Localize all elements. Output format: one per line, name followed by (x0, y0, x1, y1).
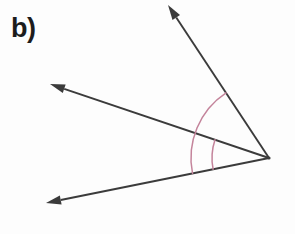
middle-ray-arrowhead (50, 84, 66, 93)
middle-ray (50, 84, 269, 158)
upper-ray-line (176, 18, 269, 158)
middle-ray-line (64, 89, 269, 158)
lower-ray-line (61, 158, 269, 200)
inner-angle-arc (212, 140, 215, 170)
upper-ray (168, 5, 269, 158)
angle-diagram-figure: b) (0, 0, 295, 234)
upper-ray-arrowhead (168, 5, 180, 20)
lower-ray (46, 158, 269, 204)
vertex-point (267, 156, 270, 159)
lower-ray-arrowhead (46, 196, 62, 205)
panel-label: b) (11, 15, 35, 42)
diagram-canvas (0, 0, 295, 234)
